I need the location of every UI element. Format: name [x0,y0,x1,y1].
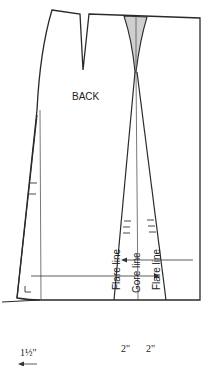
original-side-seam [40,110,41,300]
direction-arrowhead [18,362,24,366]
skirt-back-pattern-diagram: BACK Flare line Gore line Flare line 1½"… [0,0,207,366]
flared-side-seam [17,115,37,298]
flare-line-right-label: Flare line [151,248,162,290]
piece-label: BACK [72,91,100,102]
measurement-left-extension: 1½" [20,347,37,358]
hem-extension-line [2,300,40,302]
gore-dart-shaded [124,16,147,72]
flare-line-left-label: Flare line [111,248,122,290]
gore-line-label: Gore line [131,252,142,293]
measurement-right-flare: 2" [146,343,155,354]
measurement-left-flare: 2" [121,343,130,354]
hem-corner-mark [25,286,31,292]
pattern-outline [17,10,200,300]
